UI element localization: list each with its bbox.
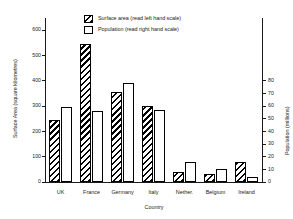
y-axis-right-tick bbox=[263, 144, 266, 145]
bar-surface-area bbox=[173, 172, 184, 182]
bar-surface-area bbox=[142, 106, 153, 182]
bar-surface-area bbox=[49, 120, 60, 182]
y-axis-right-tick bbox=[263, 182, 266, 183]
y-axis-right-tick bbox=[263, 118, 266, 119]
y-axis-left-tick-label: 300 bbox=[32, 103, 41, 108]
legend-item-population: Population (read right hand scale) bbox=[84, 24, 181, 35]
y-axis-right-tick-label: 20 bbox=[268, 154, 274, 159]
x-axis-category-label: Italy bbox=[138, 190, 169, 195]
x-axis-category-label: UK bbox=[45, 190, 76, 195]
x-axis-category-label: France bbox=[76, 190, 107, 195]
y-axis-left-tick bbox=[42, 80, 45, 81]
y-axis-left-tick-label: 100 bbox=[32, 154, 41, 159]
chart-legend: Surface area (read left hand scale) Popu… bbox=[84, 13, 181, 35]
legend-label-population: Population (read right hand scale) bbox=[98, 27, 179, 32]
y-axis-left-tick bbox=[42, 182, 45, 183]
y-axis-right-tick-label: 10 bbox=[268, 167, 274, 172]
y-axis-left-tick-label: 0 bbox=[38, 179, 41, 184]
bar-population bbox=[61, 107, 72, 182]
bar-population bbox=[247, 177, 258, 182]
bar-population bbox=[154, 110, 165, 182]
y-axis-right-tick bbox=[263, 80, 266, 81]
bar-population bbox=[123, 83, 134, 182]
y-axis-left-tick bbox=[42, 30, 45, 31]
bar-surface-area bbox=[204, 174, 215, 182]
y-axis-right-tick-label: 60 bbox=[268, 103, 274, 108]
y-axis-right-tick bbox=[263, 169, 266, 170]
x-axis-category-label: Nether. bbox=[169, 190, 200, 195]
y-axis-left-tick bbox=[42, 55, 45, 56]
y-axis-left-tick bbox=[42, 131, 45, 132]
legend-label-surface-area: Surface area (read left hand scale) bbox=[98, 16, 181, 21]
bar-surface-area bbox=[235, 162, 246, 182]
bar-surface-area bbox=[80, 44, 91, 182]
bar-surface-area bbox=[111, 92, 122, 182]
y-axis-right-tick bbox=[263, 156, 266, 157]
y-axis-left-title: Surface Area (square kilometres) bbox=[13, 44, 18, 154]
y-axis-left-tick-label: 200 bbox=[32, 129, 41, 134]
y-axis-right-line bbox=[262, 18, 263, 182]
y-axis-left-line bbox=[45, 18, 46, 182]
y-axis-right-tick-label: 70 bbox=[268, 91, 274, 96]
x-axis-category-label: Belgium bbox=[200, 190, 231, 195]
x-axis-line bbox=[45, 182, 263, 183]
y-axis-right-tick-label: 40 bbox=[268, 129, 274, 134]
y-axis-right-tick-label: 50 bbox=[268, 116, 274, 121]
legend-swatch-hatched-icon bbox=[84, 15, 93, 23]
x-axis-category-label: Germany bbox=[107, 190, 138, 195]
y-axis-left-tick-label: 400 bbox=[32, 78, 41, 83]
y-axis-left-tick-label: 500 bbox=[32, 53, 41, 58]
y-axis-left-tick bbox=[42, 156, 45, 157]
y-axis-left-tick-label: 600 bbox=[32, 27, 41, 32]
bar-population bbox=[185, 162, 196, 182]
y-axis-left-tick bbox=[42, 106, 45, 107]
bar-population bbox=[92, 111, 103, 182]
y-axis-right-tick bbox=[263, 93, 266, 94]
y-axis-right-tick bbox=[263, 106, 266, 107]
legend-swatch-white-icon bbox=[84, 26, 93, 34]
y-axis-right-title: Population (millions) bbox=[285, 76, 290, 186]
y-axis-right-tick bbox=[263, 131, 266, 132]
y-axis-right-tick-label: 80 bbox=[268, 78, 274, 83]
x-axis-category-label: Ireland bbox=[231, 190, 262, 195]
y-axis-right-tick-label: 0 bbox=[268, 179, 271, 184]
bar-population bbox=[216, 169, 227, 182]
x-axis-title: Country bbox=[45, 205, 263, 210]
legend-item-surface-area: Surface area (read left hand scale) bbox=[84, 13, 181, 24]
chart-container: 0100200300400500600 01020304050607080 UK… bbox=[0, 0, 293, 219]
y-axis-right-tick-label: 30 bbox=[268, 141, 274, 146]
